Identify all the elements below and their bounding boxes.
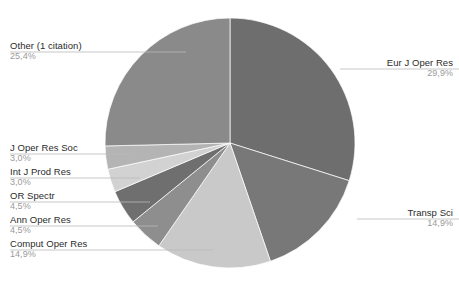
slice-label-ann-oper-res[interactable]: Ann Oper Res 4,5%: [10, 214, 71, 236]
slice-label-comput-oper-res-name: Comput Oper Res: [10, 238, 87, 249]
slice-label-transp-sci-name: Transp Sci: [407, 207, 453, 218]
slice-label-transp-sci-percent: 14,9%: [407, 218, 453, 229]
slice-label-comput-oper-res-percent: 14,9%: [10, 249, 87, 260]
pie-chart: Other (1 citation) 25,4% Eur J Oper Res …: [0, 0, 459, 285]
slice-label-ann-oper-res-name: Ann Oper Res: [10, 214, 71, 225]
slice-label-ann-oper-res-percent: 4,5%: [10, 225, 71, 236]
pie-slice[interactable]: [105, 18, 230, 146]
slice-label-j-oper-res-soc[interactable]: J Oper Res Soc 3,0%: [10, 142, 78, 164]
slice-label-int-j-prod-res-percent: 3,0%: [10, 177, 71, 188]
slice-label-transp-sci[interactable]: Transp Sci 14,9%: [407, 207, 453, 229]
slice-label-other[interactable]: Other (1 citation) 25,4%: [10, 40, 82, 62]
slice-label-or-spectr[interactable]: OR Spectr 4,5%: [10, 190, 55, 212]
slice-label-other-percent: 25,4%: [10, 51, 82, 62]
slice-label-or-spectr-percent: 4,5%: [10, 201, 55, 212]
slice-label-eur-j-oper-res-name: Eur J Oper Res: [387, 57, 453, 68]
slice-label-int-j-prod-res-name: Int J Prod Res: [10, 166, 71, 177]
slice-label-comput-oper-res[interactable]: Comput Oper Res 14,9%: [10, 238, 87, 260]
slice-label-eur-j-oper-res-percent: 29,9%: [387, 68, 453, 79]
slice-label-j-oper-res-soc-percent: 3,0%: [10, 153, 78, 164]
slice-label-other-name: Other (1 citation): [10, 40, 82, 51]
slice-label-int-j-prod-res[interactable]: Int J Prod Res 3,0%: [10, 166, 71, 188]
slice-label-j-oper-res-soc-name: J Oper Res Soc: [10, 142, 78, 153]
slice-label-eur-j-oper-res[interactable]: Eur J Oper Res 29,9%: [387, 57, 453, 79]
pie-slice-group: [105, 18, 355, 268]
slice-label-or-spectr-name: OR Spectr: [10, 190, 55, 201]
